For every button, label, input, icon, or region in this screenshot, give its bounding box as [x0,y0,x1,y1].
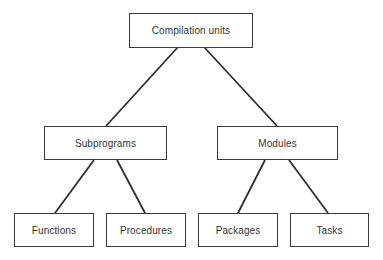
node-label: Packages [216,225,261,236]
edge-compilation-to-modules [204,47,277,126]
edge-subprograms-to-procedures [117,160,145,213]
edge-modules-to-packages [238,160,265,213]
node-modules: Modules [217,126,338,160]
node-procedures: Procedures [106,213,186,247]
node-tasks: Tasks [290,213,369,247]
edge-compilation-to-subprograms [106,47,178,126]
node-label: Subprograms [75,138,136,149]
edge-subprograms-to-functions [55,160,94,213]
node-label: Modules [258,138,297,149]
edge-modules-to-tasks [289,160,328,213]
node-label: Procedures [120,225,172,236]
node-compilation-units: Compilation units [129,13,253,48]
node-functions: Functions [14,213,94,247]
node-subprograms: Subprograms [44,126,167,160]
node-label: Tasks [316,225,342,236]
node-label: Functions [32,225,76,236]
node-label: Compilation units [152,25,230,36]
node-packages: Packages [198,213,278,247]
